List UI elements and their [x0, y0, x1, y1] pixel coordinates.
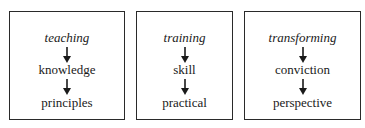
- step-label: practical: [137, 95, 232, 111]
- down-arrow-icon: [180, 79, 190, 95]
- teaching-box: teaching knowledge principles: [9, 11, 125, 120]
- down-arrow-icon: [180, 47, 190, 63]
- step-label: knowledge: [10, 62, 124, 78]
- transforming-box: transforming conviction perspective: [244, 11, 361, 120]
- column-title: training: [137, 30, 232, 46]
- down-arrow-icon: [298, 79, 308, 95]
- step-label: principles: [10, 95, 124, 111]
- down-arrow-icon: [298, 47, 308, 63]
- down-arrow-icon: [62, 79, 72, 95]
- training-box: training skill practical: [136, 11, 233, 120]
- step-label: perspective: [245, 95, 360, 111]
- step-label: skill: [137, 62, 232, 78]
- column-title: transforming: [245, 30, 360, 46]
- step-label: conviction: [245, 62, 360, 78]
- down-arrow-icon: [62, 47, 72, 63]
- column-title: teaching: [10, 30, 124, 46]
